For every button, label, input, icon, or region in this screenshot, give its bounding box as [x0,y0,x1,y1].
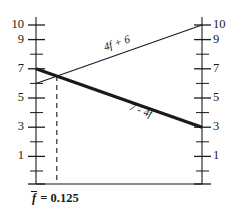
series-line-4f-plus-6 [36,25,202,83]
series-line-7-minus-4f [36,69,202,127]
graph-canvas [0,0,237,212]
left-axis-label-9: 9 [4,33,24,46]
f-value-text: = 0.125 [37,191,79,205]
left-axis-label-3: 3 [4,120,24,133]
right-axis-label-10: 10 [213,18,226,31]
left-axis-label-5: 5 [4,91,24,104]
f-value-annotation: f = 0.125 [31,191,79,205]
left-axis-label-7: 7 [4,62,24,75]
line-graph-figure: 10 9 7 5 3 1 10 9 7 5 3 1 4f + 6 7 - 4f … [0,0,237,212]
left-axis-label-10: 10 [4,18,24,31]
left-axis-label-1: 1 [4,149,24,162]
right-axis-label-3: 3 [213,120,219,133]
right-axis-label-7: 7 [213,62,219,75]
right-axis-label-1: 1 [213,149,219,162]
right-axis-label-9: 9 [213,33,219,46]
right-axis-label-5: 5 [213,91,219,104]
